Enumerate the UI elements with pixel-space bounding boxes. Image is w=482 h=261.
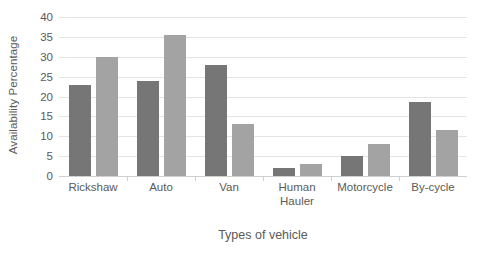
x-axis-tick (399, 176, 400, 181)
x-axis-category-labels: RickshawAutoVanHumanHaulerMotorcycleBy-c… (59, 180, 467, 220)
category-label-line: Auto (149, 181, 173, 193)
x-axis-title: Types of vehicle (59, 228, 467, 242)
category-label-line: Motorcycle (337, 181, 393, 193)
bar (436, 130, 458, 176)
bar (300, 164, 322, 176)
x-axis-tick (127, 176, 128, 181)
y-axis-tick-label: 10 (40, 130, 53, 142)
x-axis-category-label: By-cycle (399, 180, 467, 194)
y-axis-tick-label: 40 (40, 11, 53, 23)
y-axis-tick-label: 20 (40, 91, 53, 103)
x-axis-category-label: Rickshaw (59, 180, 127, 194)
bar (69, 85, 91, 176)
y-axis-tick-label: 35 (40, 31, 53, 43)
x-axis-category-label: Motorcycle (331, 180, 399, 194)
bar (232, 124, 254, 176)
y-axis-tick-label: 0 (47, 170, 53, 182)
x-axis-category-label: Auto (127, 180, 195, 194)
y-axis-tick-label: 25 (40, 71, 53, 83)
bars-layer (59, 17, 467, 176)
y-axis-tick-label: 30 (40, 51, 53, 63)
bar-chart: Availability Percentage 0510152025303540… (0, 0, 482, 261)
category-label-line: Human (278, 181, 315, 193)
category-label-line: Rickshaw (68, 181, 117, 193)
bar (409, 102, 431, 176)
category-label-line: Hauler (263, 194, 331, 208)
bar (96, 57, 118, 176)
y-axis-tick-label: 15 (40, 110, 53, 122)
y-axis-title: Availability Percentage (0, 0, 26, 190)
bar (164, 35, 186, 176)
category-label-line: Van (219, 181, 239, 193)
bar (341, 156, 363, 176)
bar (205, 65, 227, 176)
category-label-line: By-cycle (411, 181, 454, 193)
bar (273, 168, 295, 176)
y-axis-title-text: Availability Percentage (7, 36, 19, 154)
x-axis-tick (195, 176, 196, 181)
y-axis-tick-label: 5 (47, 150, 53, 162)
bar (368, 144, 390, 176)
x-axis-tick (263, 176, 264, 181)
x-axis-category-label: Van (195, 180, 263, 194)
y-axis-tick-labels: 0510152025303540 (26, 17, 56, 176)
x-axis-category-label: HumanHauler (263, 180, 331, 208)
x-axis-tick (331, 176, 332, 181)
bar (137, 81, 159, 176)
